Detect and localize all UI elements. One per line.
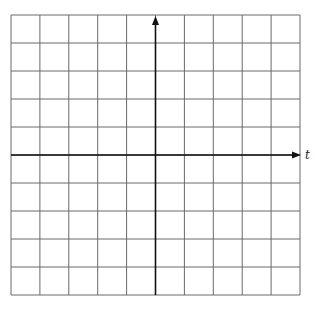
y-axis-arrowhead-icon (152, 16, 159, 25)
x-axis-label: t (305, 148, 310, 162)
coordinate-grid: t (0, 0, 315, 311)
